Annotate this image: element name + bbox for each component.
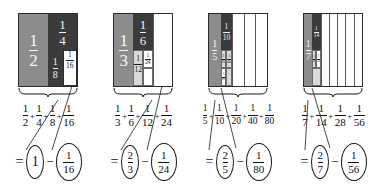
cell-denominator: 4 [59,32,66,47]
cell-one-fortieth: 1 40 [226,50,232,68]
cell-numerator: 1 [29,32,38,49]
cell-numerator: 1 [59,18,66,31]
series-group-2: 1 3 1 6 1 12 [95,0,192,191]
sum-term: 1 7 [302,103,308,128]
sum-term: 1 4 [36,103,42,128]
cell-numerator: 1 [53,57,58,67]
result-expression-1: = 1 − 1 16 [0,138,97,186]
sum-term: 1 24 [161,103,172,128]
cell-remainder [143,68,153,86]
minus-sign: − [331,154,338,170]
sum-term: 1 28 [335,103,346,128]
minus-sign: − [236,154,243,170]
fraction-square-4: 1 7 1 14 1 28 [303,13,363,87]
brace-2 [113,88,173,97]
sum-term: 1 16 [63,103,74,128]
cell-one-sixth: 1 6 [133,14,152,50]
cell-denominator: 16 [66,60,74,70]
plus-operator: + [43,111,49,121]
result-left-oval: 2 5 [216,145,234,179]
cell-one-fiftysixth: 1 56 [316,50,320,68]
sum-term: 1 6 [128,103,134,128]
sum-expression-2: 1 3 + 1 6 + 1 12 + 1 24 [95,100,192,130]
brace-1 [18,88,78,97]
plus-operator: + [208,112,213,121]
plus-operator: + [242,112,247,121]
equals-sign: = [110,154,118,170]
cell-one-quarter: 1 4 [48,14,77,50]
plus-operator: + [328,111,334,121]
result-left-oval: 1 [26,145,44,179]
sum-term: 1 2 [23,103,29,128]
cell-one-half: 1 2 [19,14,48,86]
series-group-4: 1 7 1 14 1 28 [285,0,382,191]
sum-term: 1 3 [115,103,121,128]
minus-sign: − [46,154,53,170]
sum-term: 1 10 [215,104,225,126]
brace-4 [303,88,363,97]
plus-operator: + [225,112,230,121]
plus-operator: + [259,112,264,121]
cell-one-fifth: 1 5 [209,14,221,86]
result-left-oval: 2 7 [311,145,329,179]
series-group-3: 1 5 1 10 1 20 [190,0,287,191]
sum-expression-4: 1 7 + 1 14 + 1 28 + 1 56 [285,100,382,130]
cell-one-eighth: 1 8 [48,50,63,86]
plus-operator: + [121,111,127,121]
series-group-1: 1 2 1 4 1 8 [0,0,97,191]
sum-term: 1 80 [265,104,275,126]
cell-numerator: 1 [68,51,72,59]
sum-term: 1 20 [231,104,241,126]
result-left-oval: 2 3 [121,145,139,179]
plus-operator: + [154,111,160,121]
sum-term: 1 56 [354,103,365,128]
cell-one-fourteenth: 1 14 [312,14,320,50]
whole-number: 1 [32,154,39,170]
figure-canvas: 1 2 1 4 1 8 [0,0,387,191]
cell-remainder [226,68,232,86]
fraction-square-2: 1 3 1 6 1 12 [113,13,173,87]
sum-term: 1 12 [142,103,153,128]
result-right-oval: 1 56 [341,143,367,181]
result-expression-3: = 2 5 − 1 80 [190,138,287,186]
cell-remainder [312,68,320,86]
sum-term: 1 14 [316,103,327,128]
sum-expression-3: 1 5 + 1 10 + 1 20 + 1 40 + 1 80 [190,100,287,130]
fraction-square-1: 1 2 1 4 1 8 [18,13,78,87]
cell-one-twelfth: 1 12 [133,50,143,86]
sum-expression-1: 1 2 + 1 4 + 1 8 + 1 16 [0,100,97,130]
cell-one-twentyfourth: 1 24 [143,50,153,68]
result-right-oval: 1 16 [56,143,82,181]
result-right-oval: 1 80 [246,143,272,181]
minus-sign: − [141,154,148,170]
cell-one-third: 1 3 [114,14,133,86]
plus-operator: + [56,111,62,121]
equals-sign: = [205,154,213,170]
sum-term: 1 40 [248,104,258,126]
result-expression-4: = 2 7 − 1 56 [285,138,382,186]
plus-operator: + [135,111,141,121]
plus-operator: + [347,111,353,121]
plus-operator: + [29,111,35,121]
plus-operator: + [309,111,315,121]
sum-term: 1 8 [50,103,56,128]
fraction-square-3: 1 5 1 10 1 20 [208,13,268,87]
cell-one-tenth: 1 10 [221,14,233,50]
cell-denominator: 2 [29,50,38,69]
equals-sign: = [15,154,23,170]
equals-sign: = [300,154,308,170]
result-right-oval: 1 24 [151,143,177,181]
cell-one-seventh: 1 7 [304,14,312,86]
brace-3 [208,88,268,97]
cell-denominator: 8 [53,68,58,80]
result-expression-2: = 2 3 − 1 24 [95,138,192,186]
cell-one-sixteenth: 1 16 [63,50,78,86]
sum-term: 1 5 [203,104,208,126]
